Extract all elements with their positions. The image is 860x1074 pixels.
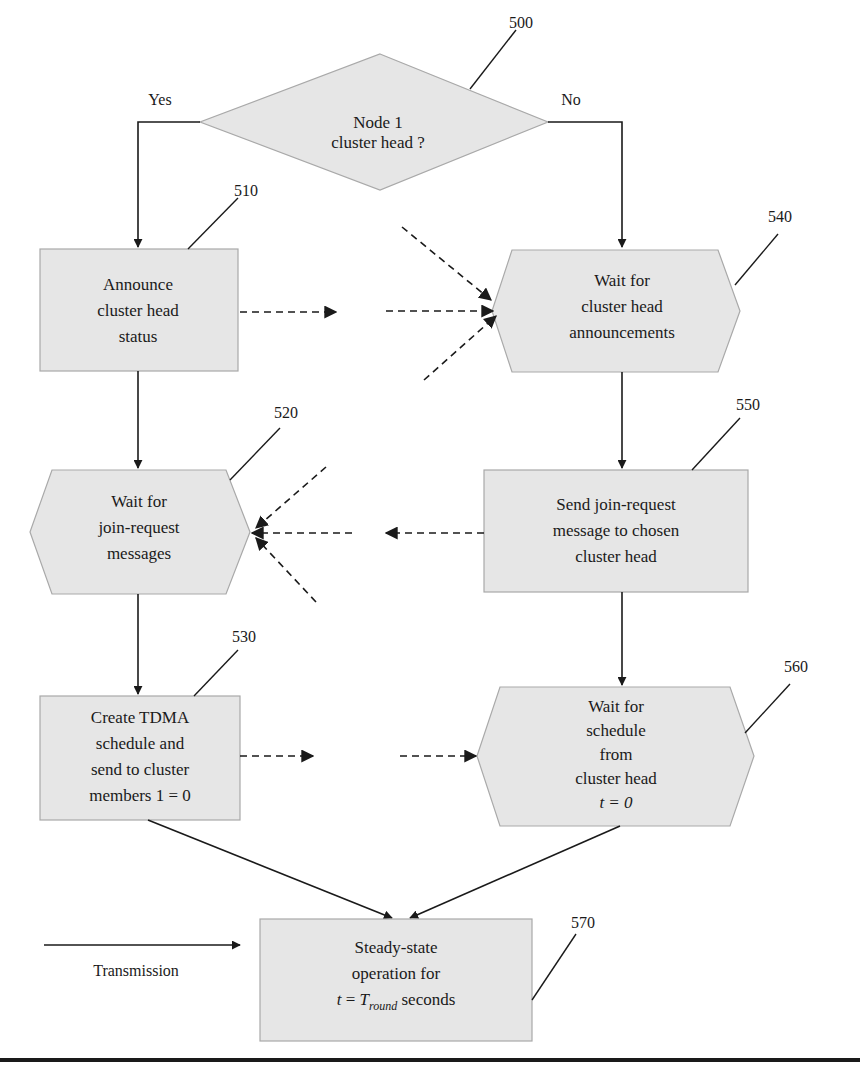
node-560-line-1: Wait for — [588, 697, 644, 716]
yes-branch-arrow — [138, 122, 200, 247]
ref-label-520: 520 — [274, 404, 298, 421]
node-560-line-4: cluster head — [575, 769, 657, 788]
node-560-line-3: from — [599, 745, 632, 764]
no-branch-arrow — [548, 122, 622, 247]
leader-line-570 — [532, 934, 576, 1000]
node-510-line-2: cluster head — [97, 301, 179, 320]
node-570-line-1: Steady-state — [354, 938, 437, 957]
node-520-line-1: Wait for — [111, 492, 167, 511]
node-540-line-3: announcements — [569, 323, 675, 342]
node-570-line-2: operation for — [352, 964, 441, 983]
ref-label-540: 540 — [768, 208, 792, 225]
node-wait-for-cluster-head-announcements: Wait for cluster head announcements — [492, 250, 740, 372]
node-530-line-1: Create TDMA — [91, 708, 190, 727]
node-wait-for-schedule: Wait for schedule from cluster head t = … — [477, 687, 754, 826]
dashed-incoming-arrow-540-lower — [424, 316, 496, 380]
yes-label: Yes — [148, 91, 171, 108]
node-announce-cluster-head-status: Announce cluster head status — [40, 249, 238, 371]
node-530-line-4: members 1 = 0 — [89, 786, 191, 805]
node-530-line-2: schedule and — [96, 734, 185, 753]
decision-text-line-1: Node 1 — [353, 113, 403, 132]
dashed-incoming-arrow-520-lower — [256, 538, 316, 602]
leader-line-550 — [692, 418, 740, 470]
ref-label-510: 510 — [234, 182, 258, 199]
ref-label-550: 550 — [736, 396, 760, 413]
node-550-line-3: cluster head — [575, 547, 657, 566]
legend-transmission-label: Transmission — [93, 962, 179, 979]
node-560-line-2: schedule — [586, 721, 645, 740]
node-530-line-3: send to cluster — [91, 760, 190, 779]
leader-line-540 — [735, 234, 778, 285]
node-steady-state-operation: Steady-state operation for t = Tround se… — [260, 919, 532, 1041]
node-510-line-3: status — [119, 327, 158, 346]
leader-line-510 — [188, 198, 238, 249]
no-label: No — [561, 91, 581, 108]
decision-node-cluster-head: Node 1 cluster head ? — [200, 54, 548, 190]
node-560-line-5: t = 0 — [599, 793, 633, 812]
dashed-incoming-arrow-540-upper — [402, 227, 491, 300]
ref-label-560: 560 — [784, 658, 808, 675]
node-550-line-1: Send join-request — [556, 495, 676, 514]
arrow-530-to-570 — [148, 820, 392, 918]
bottom-rule — [0, 1058, 860, 1062]
node-send-join-request: Send join-request message to chosen clus… — [484, 470, 748, 592]
ref-label-530: 530 — [232, 628, 256, 645]
ref-label-570: 570 — [571, 914, 595, 931]
node-520-line-2: join-request — [97, 518, 179, 537]
leader-line-500 — [470, 30, 516, 89]
node-550-line-2: message to chosen — [553, 521, 680, 540]
node-wait-for-join-request-messages: Wait for join-request messages — [30, 470, 250, 594]
dashed-incoming-arrow-520-upper — [256, 467, 326, 528]
ref-label-500: 500 — [509, 14, 533, 31]
arrow-560-to-570 — [410, 826, 620, 918]
leader-line-560 — [745, 684, 790, 733]
node-create-tdma-schedule: Create TDMA schedule and send to cluster… — [40, 696, 240, 820]
flowchart: Node 1 cluster head ? 500 Yes No Announc… — [0, 0, 860, 1074]
node-510-line-1: Announce — [103, 275, 173, 294]
decision-text-line-2: cluster head ? — [331, 133, 424, 152]
leader-line-530 — [194, 650, 238, 696]
node-540-line-1: Wait for — [594, 271, 650, 290]
node-540-line-2: cluster head — [581, 297, 663, 316]
leader-line-520 — [230, 428, 280, 480]
node-520-line-3: messages — [107, 544, 171, 563]
